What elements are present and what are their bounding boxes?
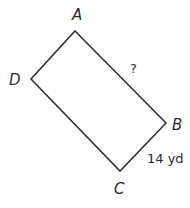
vertex-label-d: D: [9, 71, 21, 89]
side-ab-unknown-label: ?: [130, 61, 137, 76]
vertex-label-c: C: [114, 180, 125, 198]
rectangle-abcd: [31, 31, 166, 171]
vertex-label-b: B: [172, 116, 182, 134]
side-bc-length-label: 14 yd: [147, 151, 184, 166]
vertex-label-a: A: [71, 6, 82, 24]
rectangle-diagram: A B C D ? 14 yd: [0, 0, 190, 208]
